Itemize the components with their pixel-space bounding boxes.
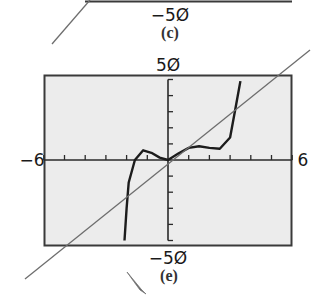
- panel-e-caption: (e): [160, 267, 178, 285]
- panel-c-ymin-label: −5Ø: [151, 5, 189, 25]
- panel-c-line: [52, 0, 90, 44]
- y-max-label: 5Ø: [156, 55, 180, 75]
- x-min-label: −6: [19, 150, 44, 170]
- stray-pen-mark: [127, 272, 146, 294]
- figure: −5Ø (c) 5Ø −6 6 −5Ø (e): [0, 0, 322, 302]
- panel-c-remnant: −5Ø (c): [52, 0, 292, 44]
- panel-e: 5Ø −6 6 −5Ø (e): [19, 50, 310, 294]
- y-min-label: −5Ø: [149, 248, 187, 268]
- panel-c-caption: (c): [161, 24, 179, 42]
- x-max-label: 6: [298, 150, 309, 170]
